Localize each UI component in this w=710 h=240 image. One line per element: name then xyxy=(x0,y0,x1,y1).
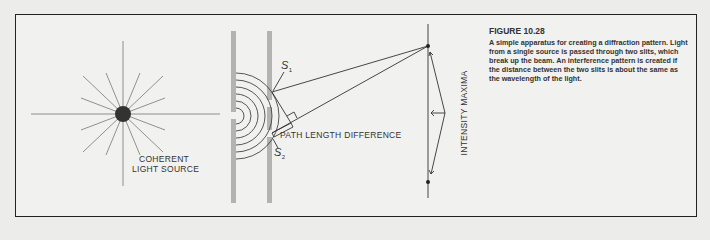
figure-caption: FIGURE 10.28 A simple apparatus for crea… xyxy=(489,27,689,83)
slit1-label: S1 xyxy=(281,59,292,73)
source-label-line1: COHERENT xyxy=(139,154,189,164)
double-slit-barrier xyxy=(267,31,272,203)
source-label-line2: LIGHT SOURCE xyxy=(132,164,199,174)
intensity-label: INTENSITY MAXIMA xyxy=(459,53,469,173)
wavefront-arcs xyxy=(236,73,279,159)
figure-caption-text: A simple apparatus for creating a diffra… xyxy=(489,38,689,83)
intensity-arrows xyxy=(429,52,445,174)
path-length-label: PATH LENGTH DIFFERENCE xyxy=(280,130,402,140)
screen-line xyxy=(426,24,430,198)
figure-title: FIGURE 10.28 xyxy=(489,27,689,36)
slit2-label: S2 xyxy=(274,146,285,160)
single-slit-barrier xyxy=(231,31,236,203)
